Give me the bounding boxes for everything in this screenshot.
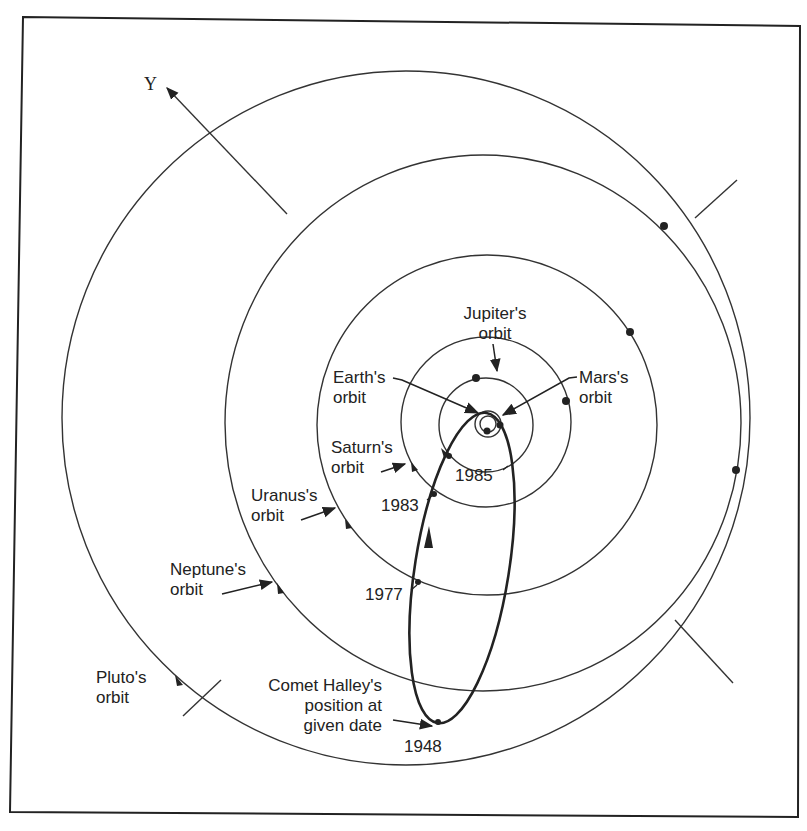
pluto-orbit <box>62 71 750 765</box>
label-line: orbit <box>579 388 629 408</box>
comet-direction-arrow <box>424 526 433 548</box>
label-line: orbit <box>333 388 385 408</box>
label-line: position at <box>242 696 382 716</box>
orbit-direction-arrow <box>345 519 352 529</box>
planet-dot <box>484 428 491 435</box>
comet-halley-label: Comet Halley's position at given date <box>242 676 382 736</box>
orbit-direction-arrow <box>277 583 284 594</box>
comet-position-dot <box>435 719 441 725</box>
label-line: orbit <box>170 580 246 600</box>
label-line: orbit <box>96 688 147 708</box>
planet-dot <box>732 466 740 474</box>
comet-halley-orbit <box>391 406 533 731</box>
mars-label: Mars's orbit <box>579 368 629 408</box>
uranus-label: Uranus's orbit <box>251 486 318 526</box>
jupiter-leader <box>493 344 497 371</box>
planet-dot <box>497 422 504 429</box>
label-line: orbit <box>460 324 530 344</box>
planet-dot <box>472 374 480 382</box>
label-line: Saturn's <box>331 438 393 458</box>
tick-mark <box>183 680 221 716</box>
neptune-orbit <box>225 155 741 691</box>
label-line: Pluto's <box>96 668 147 688</box>
label-line: orbit <box>331 458 393 478</box>
jupiter-label: Jupiter's orbit <box>460 304 530 344</box>
label-line: orbit <box>251 506 318 526</box>
label-line: Uranus's <box>251 486 318 506</box>
pluto-label: Pluto's orbit <box>96 668 147 708</box>
label-line: given date <box>242 716 382 736</box>
label-line: Mars's <box>579 368 629 388</box>
tick-mark <box>675 620 733 683</box>
neptune-label: Neptune's orbit <box>170 560 246 600</box>
year-label-1977: 1977 <box>365 585 403 605</box>
mars-leader <box>503 377 577 415</box>
year-label-1985: 1985 <box>455 466 493 486</box>
planet-dot <box>626 328 634 336</box>
year-label-1983: 1983 <box>381 496 419 516</box>
earth-label: Earth's orbit <box>333 368 385 408</box>
vernal-equinox-axis <box>167 88 287 214</box>
label-line: Comet Halley's <box>242 676 382 696</box>
planet-dot <box>562 397 570 405</box>
label-line: Jupiter's <box>460 304 530 324</box>
planet-dot <box>660 222 668 230</box>
axis-label: Υ <box>144 74 157 94</box>
year-label-1948: 1948 <box>404 737 442 757</box>
comet-leader <box>393 720 432 726</box>
label-line: Earth's <box>333 368 385 388</box>
saturn-label: Saturn's orbit <box>331 438 393 478</box>
comet-position-dot <box>415 579 421 585</box>
jupiter-orbit <box>439 378 533 472</box>
tick-mark <box>695 180 737 218</box>
label-line: Neptune's <box>170 560 246 580</box>
